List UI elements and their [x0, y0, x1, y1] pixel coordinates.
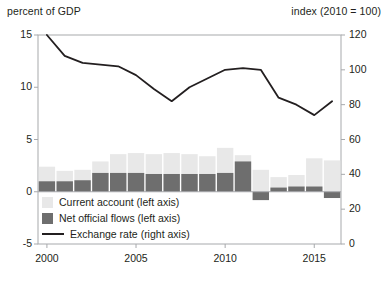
legend-swatch-marker: [42, 213, 53, 224]
bar-net-official-flows: [146, 174, 162, 192]
bar-net-official-flows: [110, 173, 126, 192]
legend-item: Current account (left axis): [42, 196, 179, 208]
bar-net-official-flows: [288, 187, 304, 192]
bar-net-official-flows: [128, 173, 144, 192]
chart-figure: percent of GDP index (2010 = 100) 151050…: [0, 0, 387, 292]
left-axis-unit-label: percent of GDP: [7, 5, 81, 17]
xtick-label: 2000: [25, 252, 69, 264]
ytick-label-left: -5: [2, 237, 32, 249]
ytick-label-right: 100: [349, 63, 387, 75]
xtick-label: 2010: [203, 252, 247, 264]
ytick-label-right: 20: [349, 202, 387, 214]
xtick-label: 2005: [114, 252, 158, 264]
legend-label: Exchange rate (right axis): [70, 228, 190, 240]
legend-label: Current account (left axis): [59, 196, 179, 208]
bar-net-official-flows: [181, 174, 197, 192]
bar-net-official-flows: [39, 181, 55, 191]
legend-item: Exchange rate (right axis): [42, 228, 190, 240]
bar-net-official-flows: [235, 161, 251, 191]
bar-net-official-flows: [324, 192, 340, 198]
right-axis-unit-label: index (2010 = 100): [291, 5, 381, 17]
bar-net-official-flows: [163, 174, 179, 192]
legend-line-marker: [42, 233, 64, 235]
ytick-label-right: 120: [349, 28, 387, 40]
bar-net-official-flows: [74, 180, 90, 191]
bar-net-official-flows: [253, 192, 269, 200]
bar-current-account: [324, 160, 340, 191]
legend-swatch-marker: [42, 197, 53, 208]
bar-current-account: [253, 170, 269, 192]
ytick-label-right: 40: [349, 167, 387, 179]
chart-plot-area: [0, 0, 387, 292]
bar-net-official-flows: [217, 173, 233, 192]
ytick-label-right: 80: [349, 98, 387, 110]
bar-net-official-flows: [306, 187, 322, 192]
ytick-label-left: 15: [2, 28, 32, 40]
ytick-label-right: 0: [349, 237, 387, 249]
bar-net-official-flows: [57, 181, 73, 191]
xtick-label: 2015: [292, 252, 336, 264]
ytick-label-right: 60: [349, 133, 387, 145]
ytick-label-left: 0: [2, 185, 32, 197]
legend-label: Net official flows (left axis): [59, 212, 180, 224]
ytick-label-left: 10: [2, 80, 32, 92]
bar-net-official-flows: [199, 174, 215, 192]
bar-net-official-flows: [92, 173, 108, 192]
ytick-label-left: 5: [2, 133, 32, 145]
legend-item: Net official flows (left axis): [42, 212, 180, 224]
bar-net-official-flows: [270, 188, 286, 192]
